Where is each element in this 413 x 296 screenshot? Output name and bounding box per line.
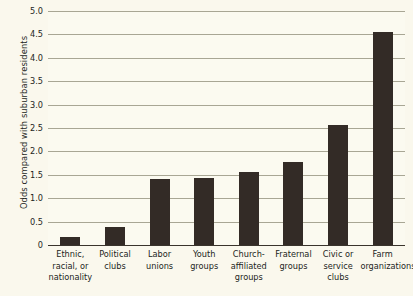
x-axis-category-label: Youth groups — [182, 249, 227, 272]
x-axis-category-label: Labor unions — [137, 249, 182, 272]
bar[interactable] — [283, 162, 303, 245]
x-axis-category-label: Ethnic, racial, or nationality — [48, 249, 93, 284]
gridline — [48, 34, 405, 35]
gridline — [48, 175, 405, 176]
y-axis-tick-label: 0.5 — [30, 217, 43, 225]
bar[interactable] — [239, 172, 259, 245]
y-axis-tick-label: 2.5 — [30, 124, 43, 132]
gridline — [48, 151, 405, 152]
gridline — [48, 11, 405, 12]
x-axis-category-label: Political clubs — [93, 249, 138, 272]
x-axis-category-labels: Ethnic, racial, or nationalityPolitical … — [48, 249, 405, 296]
x-axis-category-label: Farm organizations — [360, 249, 405, 272]
y-axis-tick-label: 3.0 — [30, 100, 43, 108]
gridline — [48, 58, 405, 59]
y-axis-tick-label: 3.5 — [30, 77, 43, 85]
bar[interactable] — [373, 32, 393, 245]
gridline — [48, 222, 405, 223]
y-axis-tick-label: 0 — [38, 241, 43, 249]
y-axis-tick-label: 2.0 — [30, 147, 43, 155]
x-axis-category-label: Civic or service clubs — [316, 249, 361, 284]
bar[interactable] — [105, 227, 125, 245]
bar[interactable] — [60, 237, 80, 245]
bar-chart: Odds compared with suburban residents 00… — [0, 0, 413, 296]
x-axis-line — [48, 245, 405, 246]
gridline — [48, 81, 405, 82]
plot-area — [48, 11, 405, 245]
y-axis-tick-label: 4.5 — [30, 30, 43, 38]
gridline — [48, 198, 405, 199]
bar[interactable] — [194, 178, 214, 245]
x-axis-category-label: Church- affiliated groups — [227, 249, 272, 284]
x-axis-category-label: Fraternal groups — [271, 249, 316, 272]
y-axis-tick-label: 1.0 — [30, 194, 43, 202]
bar[interactable] — [328, 125, 348, 245]
y-axis-tick-label: 1.5 — [30, 171, 43, 179]
y-axis-tick-label: 4.0 — [30, 54, 43, 62]
y-axis-tick-labels: 00.51.01.52.02.53.03.54.04.55.0 — [16, 0, 46, 296]
bar[interactable] — [150, 179, 170, 245]
gridline — [48, 128, 405, 129]
y-axis-tick-label: 5.0 — [30, 7, 43, 15]
gridline — [48, 105, 405, 106]
